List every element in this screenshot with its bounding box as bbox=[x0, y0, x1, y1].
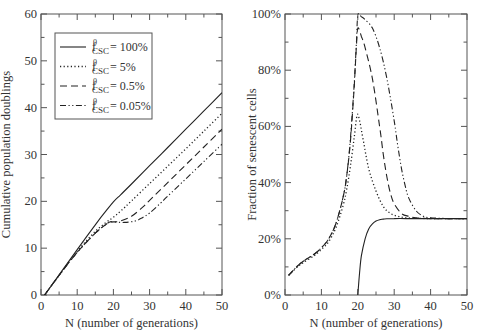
x-tick-label: 10 bbox=[315, 299, 328, 313]
y-tick-label: 0% bbox=[264, 288, 281, 302]
series-line bbox=[289, 28, 467, 276]
y-tick-label: 100% bbox=[252, 7, 281, 21]
figure: 010203040500102030405060N (number of gen… bbox=[0, 0, 482, 332]
y-tick-label: 50 bbox=[25, 54, 38, 68]
y-tick-label: 0 bbox=[31, 288, 37, 302]
y-tick-label: 20 bbox=[25, 194, 38, 208]
x-tick-label: 20 bbox=[352, 299, 365, 313]
x-axis-label: N (number of generations) bbox=[310, 316, 443, 330]
plot-frame bbox=[285, 14, 467, 295]
series-line bbox=[358, 219, 467, 295]
x-tick-label: 30 bbox=[143, 299, 156, 313]
series-line bbox=[289, 114, 467, 275]
y-axis-label: Fraction of senescent cells bbox=[245, 88, 259, 220]
y-tick-label: 80% bbox=[258, 63, 281, 77]
y-tick-label: 60 bbox=[25, 7, 38, 21]
x-tick-label: 40 bbox=[180, 299, 193, 313]
right-plot-senescent-fraction: 010203040500%20%40%60%80%100%N (number o… bbox=[245, 7, 473, 330]
series-line bbox=[45, 113, 222, 295]
x-tick-label: 50 bbox=[216, 299, 229, 313]
series-line bbox=[289, 13, 467, 275]
y-tick-label: 30 bbox=[25, 148, 38, 162]
x-tick-label: 20 bbox=[107, 299, 120, 313]
y-tick-label: 40% bbox=[258, 176, 281, 190]
y-tick-label: 60% bbox=[258, 119, 281, 133]
x-tick-label: 50 bbox=[461, 299, 474, 313]
series-line bbox=[45, 129, 222, 295]
x-tick-label: 10 bbox=[71, 299, 84, 313]
series-line bbox=[45, 93, 222, 295]
y-tick-label: 40 bbox=[25, 101, 38, 115]
x-tick-label: 40 bbox=[424, 299, 437, 313]
series-line bbox=[45, 144, 222, 295]
x-tick-label: 0 bbox=[282, 299, 288, 313]
x-tick-label: 0 bbox=[38, 299, 44, 313]
y-tick-label: 10 bbox=[25, 241, 38, 255]
y-axis-label: Cumulative population doublings bbox=[0, 71, 13, 238]
x-axis-label: N (number of generations) bbox=[65, 316, 198, 330]
left-plot-cumulative-doublings: 010203040500102030405060N (number of gen… bbox=[0, 7, 228, 330]
legend: f0CSC= 100%f0CSC= 5%f0CSC= 0.5%f0CSC= 0.… bbox=[55, 33, 152, 119]
y-tick-label: 20% bbox=[258, 232, 281, 246]
x-tick-label: 30 bbox=[388, 299, 401, 313]
